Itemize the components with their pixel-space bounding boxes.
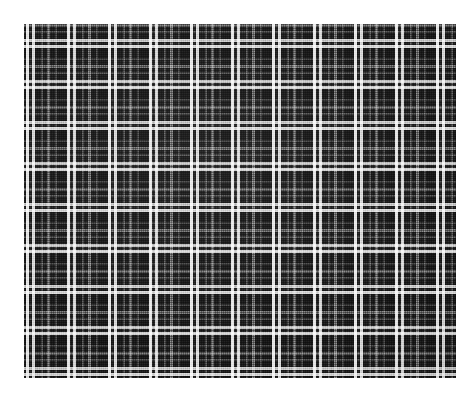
image-canvas [0, 0, 476, 399]
plaid-fabric-swatch [24, 24, 456, 378]
swatch-shading [24, 24, 456, 378]
weave-weft-texture [24, 24, 456, 378]
plaid-horizontal-stripes [24, 24, 456, 378]
plaid-vertical-stripes [24, 24, 456, 378]
weave-warp-texture [24, 24, 456, 378]
weave-noise-texture [24, 24, 456, 378]
